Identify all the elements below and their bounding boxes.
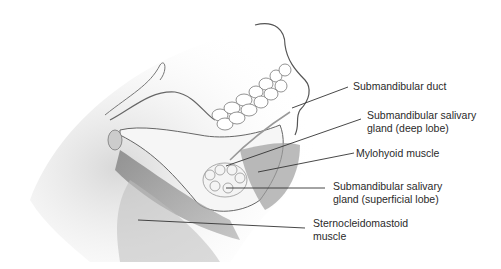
label-text: Submandibular duct: [353, 80, 446, 92]
ear: [108, 130, 122, 150]
label-deep-lobe: Submandibular salivarygland (deep lobe): [367, 109, 476, 135]
label-superficial-lobe: Submandibular salivarygland (superficial…: [333, 180, 442, 206]
submandibular-gland: [203, 163, 247, 197]
label-text: Sternocleidomastoid: [313, 217, 408, 229]
label-text: Submandibular salivary: [333, 180, 442, 192]
label-text: gland (superficial lobe): [333, 193, 439, 205]
label-sternocleidomastoid: Sternocleidomastoidmuscle: [313, 217, 408, 243]
label-submandibular-duct: Submandibular duct: [353, 80, 446, 93]
label-text: muscle: [313, 230, 346, 242]
label-text: gland (deep lobe): [367, 122, 449, 134]
label-mylohyoid: Mylohyoid muscle: [356, 147, 439, 160]
label-text: Submandibular salivary: [367, 109, 476, 121]
label-text: Mylohyoid muscle: [356, 147, 439, 159]
